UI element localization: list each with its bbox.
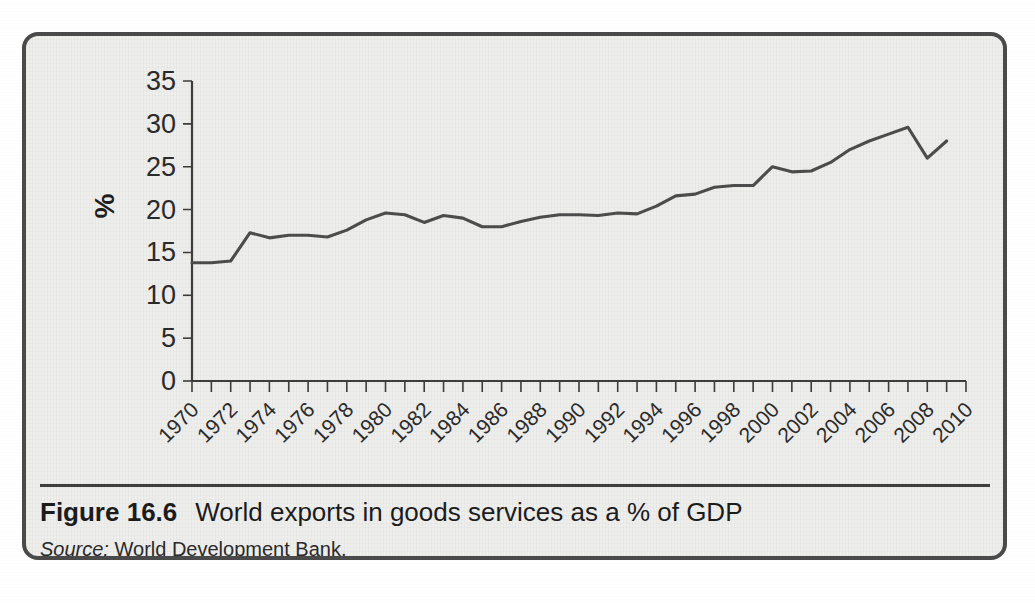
x-tick-label: 1990 (541, 398, 590, 447)
x-tick-label: 1996 (657, 398, 706, 447)
x-tick-label: 2000 (734, 398, 783, 447)
y-tick-label: 0 (161, 366, 176, 396)
x-tick-label: 1972 (192, 398, 241, 447)
x-tick-label: 1982 (386, 398, 435, 447)
y-tick-label: 20 (146, 195, 176, 225)
x-tick-label: 1998 (695, 398, 744, 447)
x-tick-label: 1984 (424, 397, 474, 447)
line-chart: 05101520253035%1970197219741976197819801… (26, 36, 1003, 456)
y-tick-label: 30 (146, 109, 176, 139)
x-tick-label: 1978 (308, 398, 357, 447)
x-tick-label: 1970 (154, 398, 203, 447)
y-tick-label: 5 (161, 323, 176, 353)
y-tick-label: 10 (146, 280, 176, 310)
x-tick-label: 1976 (270, 398, 319, 447)
chart-plot-area: 05101520253035%1970197219741976197819801… (26, 36, 1003, 456)
y-tick-label: 35 (146, 66, 176, 96)
x-tick-label: 1992 (579, 398, 628, 447)
source-text: World Development Bank. (115, 538, 347, 560)
x-tick-label: 2006 (850, 398, 899, 447)
x-tick-label: 2010 (928, 398, 977, 447)
figure-title: World exports in goods services as a % o… (195, 497, 742, 527)
x-tick-label: 2004 (811, 397, 861, 447)
data-series-line (192, 127, 947, 262)
figure-panel: 05101520253035%1970197219741976197819801… (22, 32, 1007, 560)
x-tick-label: 2002 (773, 398, 822, 447)
y-axis-title: % (89, 193, 120, 218)
caption-divider (40, 484, 990, 487)
y-tick-label: 15 (146, 237, 176, 267)
caption-block: Figure 16.6World exports in goods servic… (40, 496, 990, 560)
x-tick-label: 1994 (618, 397, 668, 447)
figure-caption: Figure 16.6World exports in goods servic… (40, 496, 990, 529)
x-tick-label: 1974 (231, 397, 281, 447)
x-tick-label: 1988 (502, 398, 551, 447)
source-label: Source: (40, 538, 109, 560)
figure-number: Figure 16.6 (40, 497, 177, 527)
y-tick-label: 25 (146, 152, 176, 182)
x-tick-label: 1980 (347, 398, 396, 447)
figure-source: Source: World Development Bank. (40, 538, 990, 561)
x-tick-label: 1986 (463, 398, 512, 447)
x-tick-label: 2008 (889, 398, 938, 447)
